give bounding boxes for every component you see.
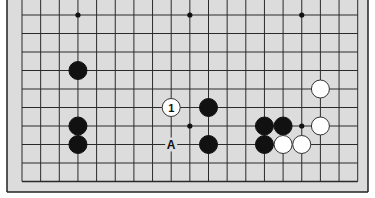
black-stone-icon xyxy=(274,117,292,135)
black-stone-icon xyxy=(255,117,273,135)
black-stone-icon xyxy=(255,136,273,154)
black-stone-icon xyxy=(69,117,87,135)
black-stone xyxy=(69,62,87,80)
white-stone-icon xyxy=(274,136,292,154)
move-number-label: 1 xyxy=(168,102,174,114)
star-point-icon xyxy=(75,12,80,17)
black-stone-icon xyxy=(200,99,218,117)
white-stone-icon xyxy=(311,80,329,98)
black-stone-icon xyxy=(200,136,218,154)
black-stone xyxy=(200,99,218,117)
black-stone xyxy=(200,136,218,154)
black-stone xyxy=(69,117,87,135)
star-point-icon xyxy=(187,123,192,128)
white-stone xyxy=(311,80,329,98)
white-stone: 1 xyxy=(162,99,180,117)
marker-label: A xyxy=(167,138,176,152)
white-stone-icon xyxy=(293,136,311,154)
white-stone xyxy=(274,136,292,154)
black-stone xyxy=(69,136,87,154)
black-stone xyxy=(255,136,273,154)
markers: A xyxy=(165,138,177,153)
black-stone-icon xyxy=(69,136,87,154)
white-stone xyxy=(293,136,311,154)
black-stone xyxy=(274,117,292,135)
point-marker: A xyxy=(165,138,177,153)
black-stone xyxy=(255,117,273,135)
black-stone-icon xyxy=(69,62,87,80)
white-stone xyxy=(311,117,329,135)
star-point-icon xyxy=(299,123,304,128)
go-board-diagram: 1 A xyxy=(0,0,375,198)
star-point-icon xyxy=(299,12,304,17)
white-stone-icon xyxy=(311,117,329,135)
star-point-icon xyxy=(187,12,192,17)
